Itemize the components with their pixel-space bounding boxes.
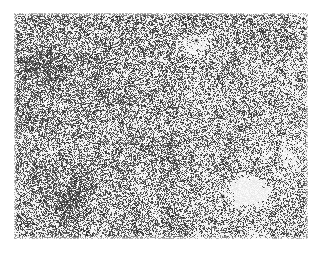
page-canvas	[0, 0, 322, 255]
figure-image-region	[14, 13, 308, 239]
speckle-texture-canvas	[14, 13, 308, 239]
